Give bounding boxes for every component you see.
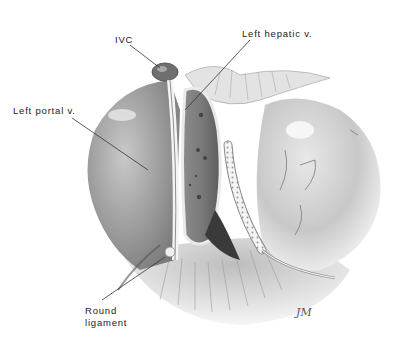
label-left-hepatic-v: Left hepatic v. — [242, 28, 312, 40]
label-ivc: IVC — [115, 34, 133, 46]
liver-illustration: JM — [0, 0, 403, 345]
right-lobe — [257, 99, 381, 271]
left-lobe — [88, 80, 181, 270]
artist-signature: JM — [294, 306, 312, 319]
ivc-shape — [152, 63, 178, 81]
label-round-ligament-2: ligament — [85, 317, 127, 329]
label-round-ligament-1: Round — [85, 305, 117, 317]
label-left-portal-v: Left portal v. — [13, 105, 76, 117]
